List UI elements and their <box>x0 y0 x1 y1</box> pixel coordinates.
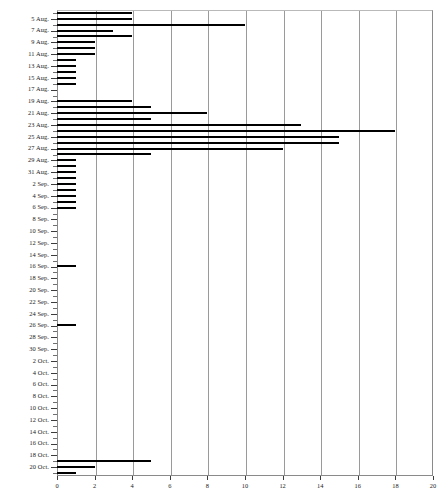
bar <box>57 130 395 132</box>
y-axis-label: 7 Aug. <box>31 27 49 33</box>
y-axis-label: 31 Aug. <box>28 169 49 175</box>
y-axis-label: 6 Oct. <box>33 381 49 387</box>
y-axis-label: 10 Oct. <box>29 405 49 411</box>
y-axis-label: 17 Aug. <box>28 86 49 92</box>
y-axis-label: 27 Aug. <box>28 145 49 151</box>
bar <box>57 112 207 114</box>
y-axis-label: 16 Sep. <box>29 263 49 269</box>
bar <box>57 201 76 203</box>
bar <box>57 83 76 85</box>
x-axis-tick <box>283 476 284 480</box>
y-axis-label: 13 Aug. <box>28 63 49 69</box>
y-axis: 5 Aug.7 Aug.9 Aug.11 Aug.13 Aug.15 Aug.1… <box>0 10 57 476</box>
bar <box>57 106 151 108</box>
y-axis-label: 16 Oct. <box>29 440 49 446</box>
bar <box>57 77 76 79</box>
y-axis-label: 22 Sep. <box>29 299 49 305</box>
x-axis-tick <box>170 476 171 480</box>
y-axis-label: 23 Aug. <box>28 122 49 128</box>
bar <box>57 153 151 155</box>
bar <box>57 53 95 55</box>
x-axis-tick <box>433 476 434 480</box>
bars-layer <box>57 10 433 476</box>
y-axis-label: 21 Aug. <box>28 110 49 116</box>
x-axis-label: 6 <box>168 482 171 489</box>
y-axis-label: 6 Sep. <box>32 204 49 210</box>
x-axis-label: 12 <box>279 482 285 489</box>
y-axis-label: 9 Aug. <box>31 39 49 45</box>
y-axis-label: 10 Sep. <box>29 228 49 234</box>
y-axis-label: 30 Sep. <box>29 346 49 352</box>
x-axis-label: 10 <box>242 482 248 489</box>
bar <box>57 100 132 102</box>
bar <box>57 30 113 32</box>
x-axis-label: 4 <box>131 482 134 489</box>
x-axis-label: 20 <box>430 482 436 489</box>
y-axis-label: 26 Sep. <box>29 322 49 328</box>
bar <box>57 35 132 37</box>
bar <box>57 142 339 144</box>
bar <box>57 41 95 43</box>
y-axis-label: 14 Sep. <box>29 252 49 258</box>
x-axis-label: 0 <box>55 482 58 489</box>
y-axis-label: 15 Aug. <box>28 75 49 81</box>
bar <box>57 118 151 120</box>
x-axis-tick <box>320 476 321 480</box>
x-axis-label: 8 <box>206 482 209 489</box>
y-axis-label: 5 Aug. <box>31 16 49 22</box>
y-axis-label: 8 Oct. <box>33 393 49 399</box>
y-axis-label: 20 Oct. <box>29 464 49 470</box>
x-axis-tick <box>207 476 208 480</box>
y-axis-label: 18 Oct. <box>29 452 49 458</box>
bar <box>57 159 76 161</box>
y-axis-label: 25 Aug. <box>28 134 49 140</box>
bar <box>57 71 76 73</box>
y-axis-label: 14 Oct. <box>29 429 49 435</box>
bar <box>57 12 132 14</box>
y-axis-label: 4 Sep. <box>32 193 49 199</box>
bar <box>57 189 76 191</box>
y-axis-label: 4 Oct. <box>33 370 49 376</box>
bar <box>57 195 76 197</box>
bar <box>57 65 76 67</box>
bar <box>57 124 301 126</box>
y-axis-label: 12 Sep. <box>29 240 49 246</box>
y-axis-label: 24 Sep. <box>29 311 49 317</box>
bar <box>57 59 76 61</box>
bar <box>57 171 76 173</box>
bar <box>57 460 151 462</box>
bar <box>57 24 245 26</box>
y-axis-label: 2 Oct. <box>33 358 49 364</box>
bar-chart: 5 Aug.7 Aug.9 Aug.11 Aug.13 Aug.15 Aug.1… <box>0 0 441 499</box>
bar <box>57 47 95 49</box>
x-axis-label: 16 <box>355 482 361 489</box>
x-axis-label: 14 <box>317 482 323 489</box>
y-axis-label: 20 Sep. <box>29 287 49 293</box>
y-axis-label: 18 Sep. <box>29 275 49 281</box>
bar <box>57 18 132 20</box>
bar <box>57 183 76 185</box>
x-axis-tick <box>245 476 246 480</box>
x-axis: 02468101214161820 <box>57 476 433 499</box>
bar <box>57 265 76 267</box>
x-axis-label: 18 <box>392 482 398 489</box>
bar <box>57 177 76 179</box>
x-axis-tick <box>95 476 96 480</box>
bar <box>57 136 339 138</box>
bar <box>57 207 76 209</box>
y-axis-label: 12 Oct. <box>29 417 49 423</box>
bar <box>57 466 95 468</box>
bar <box>57 165 76 167</box>
bar <box>57 148 283 150</box>
y-axis-label: 8 Sep. <box>32 216 49 222</box>
x-axis-label: 2 <box>93 482 96 489</box>
y-axis-label: 19 Aug. <box>28 98 49 104</box>
x-axis-tick <box>358 476 359 480</box>
y-axis-label: 11 Aug. <box>28 51 49 57</box>
bar <box>57 324 76 326</box>
y-axis-label: 29 Aug. <box>28 157 49 163</box>
x-axis-tick <box>132 476 133 480</box>
y-axis-label: 28 Sep. <box>29 334 49 340</box>
bar <box>57 472 76 474</box>
x-axis-tick <box>395 476 396 480</box>
